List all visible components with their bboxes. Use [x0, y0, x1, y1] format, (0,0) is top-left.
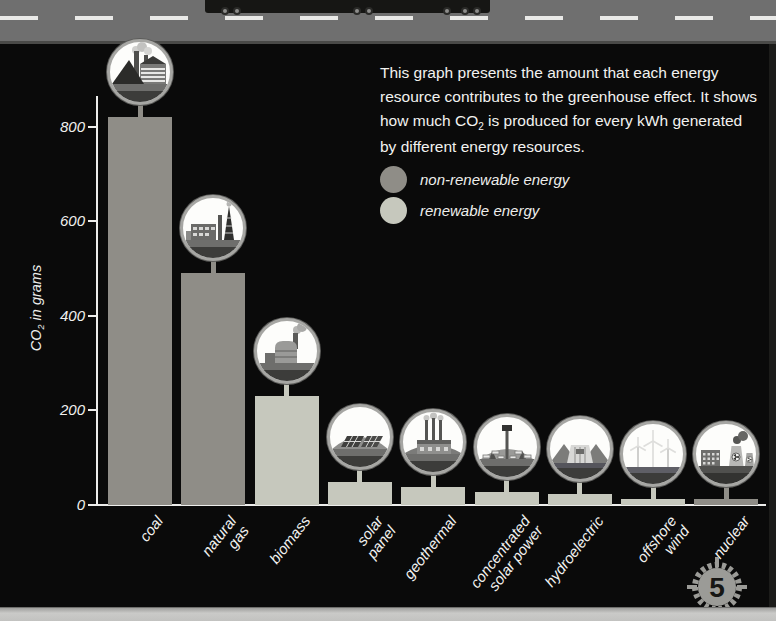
x-label-offshore-wind: offshore wind [634, 513, 693, 575]
y-tick-mark [88, 409, 97, 411]
icon-stem [724, 487, 729, 499]
y-tick-label: 800 [37, 117, 85, 137]
bar-concentrated-solar-power [475, 492, 539, 505]
page-bottom-edge [0, 607, 776, 621]
y-tick-mark [88, 315, 97, 317]
csp-tower-icon [474, 414, 540, 480]
y-tick-mark [88, 220, 97, 222]
bar-geothermal [401, 487, 465, 505]
y-tick-mark [88, 504, 97, 506]
x-label-solar-panel: solar panel [351, 513, 399, 562]
gas-refinery-icon [180, 195, 246, 261]
icon-stem [431, 475, 436, 487]
x-label-nuclear: nuclear [710, 513, 753, 562]
geothermal-plant-icon [400, 409, 466, 475]
icon-stem [577, 482, 582, 494]
page-right-edge [769, 44, 776, 607]
bar-hydroelectric [548, 494, 612, 505]
solar-panel-icon [327, 404, 393, 470]
bar-coal [108, 117, 172, 505]
x-label-geothermal: geothermal [401, 513, 460, 582]
bar-solar-panel [328, 482, 392, 505]
icon-stem [138, 105, 143, 117]
x-label-hydroelectric: hydroelectric [541, 513, 606, 590]
icon-stem [211, 261, 216, 273]
x-label-coal: coal [137, 513, 167, 545]
page-number: 5 [709, 572, 725, 603]
bar-offshore-wind [621, 499, 685, 505]
bar-biomass [255, 396, 319, 505]
x-label-concentrated-solar-power: concentrated solar power [467, 513, 546, 601]
y-tick-label: 400 [37, 306, 85, 326]
icon-stem [504, 480, 509, 492]
hydro-dam-icon [547, 416, 613, 482]
icon-stem [357, 470, 362, 482]
y-tick-label: 0 [37, 495, 85, 515]
bar-natural-gas [181, 273, 245, 505]
coal-plant-icon [107, 39, 173, 105]
x-label-natural-gas: natural gas [199, 513, 252, 569]
bar-nuclear [694, 499, 758, 505]
y-tick-label: 600 [37, 211, 85, 231]
icon-stem [651, 487, 656, 499]
offshore-wind-icon [620, 421, 686, 487]
icon-stem [284, 384, 289, 396]
y-axis-line [96, 96, 98, 506]
nuclear-plant-icon [693, 421, 759, 487]
biomass-plant-icon [254, 318, 320, 384]
x-label-biomass: biomass [266, 513, 313, 567]
y-tick-mark [88, 126, 97, 128]
y-tick-label: 200 [37, 400, 85, 420]
